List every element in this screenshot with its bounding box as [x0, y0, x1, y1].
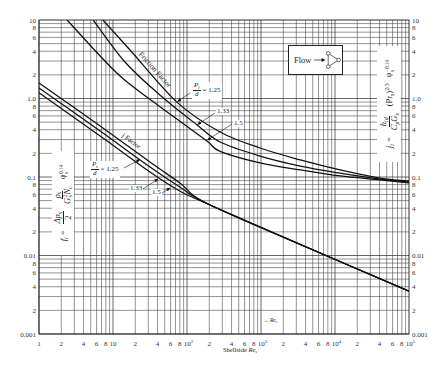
x-tick-label-base: 6: [95, 340, 99, 348]
x-tick-label: 6: [391, 340, 395, 348]
equals: =: [384, 137, 394, 142]
y-tick-label-right: 6: [412, 34, 416, 42]
symbol-rho: ρ: [52, 194, 62, 198]
fraction-pressure-drop: Δps 2: [53, 211, 73, 225]
friction-factor-curve-1-25: [103, 20, 409, 181]
tube-icon: [337, 58, 341, 62]
y-tick-label-right: 2: [412, 228, 416, 236]
symbol-phi: φ: [57, 174, 67, 179]
x-tick-label: 105: [406, 339, 416, 348]
right-axis-label-j-formula: ji = hid CpGs (Prs)2/3 φ−0.14s: [377, 46, 401, 162]
viscosity-correction: φ0.14s: [57, 165, 68, 180]
subscript: s: [394, 113, 400, 115]
pitch-ratio-fraction: Pt d: [193, 82, 201, 99]
y-tick-label-left: 2: [33, 150, 37, 158]
subscript: s: [56, 192, 62, 194]
x-axis-title-text: Shellside: [223, 346, 248, 353]
y-tick-label-left: 4: [33, 48, 37, 56]
y-tick-label-left: 6: [33, 269, 37, 277]
tube-icon: [327, 65, 331, 69]
j-pitch-label-1-25: Pt d = 1.25: [90, 161, 120, 178]
x-tick-label-base: 6: [391, 340, 395, 348]
left-axis-label-friction-formula: fi = Δps 2 ρs G2sNc φ0.14s: [52, 151, 74, 255]
symbol-re: Re: [270, 317, 276, 323]
subscript: i: [389, 144, 395, 146]
x-tick-label-base: 8: [104, 340, 108, 348]
pitch-ratio-fraction: Pt d: [91, 161, 99, 178]
subscript: s: [389, 94, 395, 96]
denominator: 2: [64, 215, 73, 221]
symbol-d: d: [194, 91, 200, 99]
x-tick-label-exponent: 3: [265, 339, 268, 344]
y-tick-label-right: 2: [412, 307, 416, 315]
y-tick-label-right: 8: [412, 260, 416, 268]
y-tick-label-right: 6: [412, 191, 416, 199]
y-tick-label-left: 6: [33, 191, 37, 199]
leader-j-1-5: [162, 188, 170, 193]
subscript: t: [96, 164, 97, 169]
symbol-delta-p: Δp: [52, 214, 62, 223]
y-tick-label-right: 4: [412, 283, 416, 291]
flow-inset: Flow: [288, 45, 343, 75]
tick-labels: 1086421.086420.186420.0186420.0011086421…: [20, 17, 428, 348]
y-tick-label-right: 8: [412, 103, 416, 111]
x-tick-label-base: 8: [326, 340, 330, 348]
x-tick-label: 8: [326, 340, 330, 348]
pitch-value: = 1.25: [203, 87, 221, 94]
y-tick-label-right: 4: [412, 126, 416, 134]
subscript: id: [383, 117, 389, 122]
y-tick-label-right: 8: [412, 24, 416, 32]
friction-factor-curve-1-33: [93, 20, 409, 182]
arrow-right-icon: →: [263, 317, 269, 323]
y-tick-label-right: 6: [412, 112, 416, 120]
y-tick-label-right: 6: [412, 269, 416, 277]
chart-figure: 1086421.086420.186420.0186420.0011086421…: [0, 0, 445, 375]
subscript: i: [63, 237, 69, 239]
symbol-f: f: [58, 239, 68, 241]
fraction-density: ρs G2sNc: [53, 185, 74, 205]
x-tick-label-base: 2: [60, 340, 64, 348]
x-tick-label: 6: [169, 340, 173, 348]
y-tick-label-right: 0.001: [412, 331, 428, 339]
x-tick-label-exponent: 2: [191, 339, 194, 344]
formula-lhs: ji =: [384, 137, 394, 148]
x-tick-label: 8: [104, 340, 108, 348]
y-tick-label-right: 2: [412, 150, 416, 158]
x-tick-label: 2: [134, 340, 138, 348]
y-tick-label-left: 2: [33, 71, 37, 79]
y-tick-label-left: 8: [33, 24, 37, 32]
viscosity-correction: φ−0.14s: [383, 60, 394, 78]
x-axis-title: Shellside Res: [180, 346, 300, 353]
subscript: s: [64, 165, 69, 174]
y-tick-label-left: 2: [33, 228, 37, 236]
x-tick-label: 4: [156, 340, 160, 348]
fraction-heat-transfer: hid CpGs: [379, 112, 399, 131]
symbol-n: N: [62, 189, 72, 195]
x-tick-label-base: 2: [356, 340, 360, 348]
x-tick-label: 4: [378, 340, 382, 348]
x-tick-label: 2: [60, 340, 64, 348]
x-tick-label-base: 10: [110, 340, 118, 348]
x-tick-label: 8: [400, 340, 404, 348]
x-tick-label: 2: [356, 340, 360, 348]
subscript: c: [67, 186, 73, 189]
y-tick-label-right: 8: [412, 181, 416, 189]
friction-pitch-label-1-33: 1.33: [216, 108, 230, 115]
subscript: s: [57, 212, 63, 214]
leader-friction-1-33: [198, 113, 216, 125]
y-tick-label-left: 8: [33, 103, 37, 111]
x-tick-label: 6: [95, 340, 99, 348]
symbol-c: C: [389, 125, 399, 131]
prandtl-term: (Prs)2/3: [384, 83, 394, 106]
x-tick-label-base: 6: [317, 340, 321, 348]
superscript: 2/3: [384, 83, 390, 90]
y-tick-label-left: 2: [33, 307, 37, 315]
x-tick-label: 104: [332, 339, 342, 348]
curves: [39, 20, 409, 291]
x-tick-label: 1: [37, 340, 41, 348]
x-tick-label-base: 6: [169, 340, 173, 348]
x-tick-label: 6: [317, 340, 321, 348]
flow-label: Flow: [294, 55, 311, 65]
reynolds-arrow-label: → Res: [263, 318, 277, 324]
subscript: p: [394, 122, 400, 125]
